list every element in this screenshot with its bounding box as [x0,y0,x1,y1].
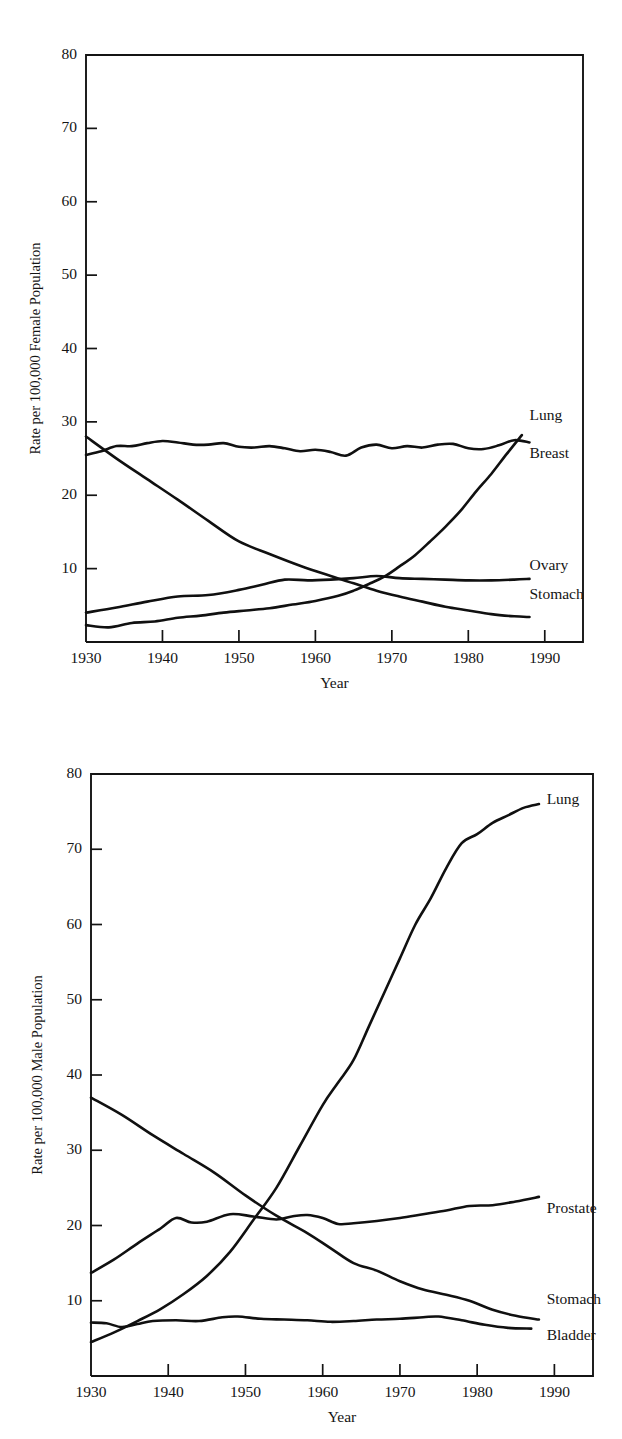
x-tick-label: 1940 [147,649,178,666]
series-line-prostate [91,1197,539,1273]
series-label-lung: Lung [529,406,562,423]
series-line-lung [86,435,522,627]
y-tick-label: 70 [67,839,83,856]
x-tick-label: 1970 [384,1383,415,1400]
series-line-lung [91,804,539,1342]
y-tick-label: 50 [62,265,78,282]
y-tick-label: 70 [62,118,78,135]
plot-frame [86,55,583,642]
x-tick-label: 1990 [529,649,560,666]
x-tick-label: 1980 [462,1383,493,1400]
y-tick-label: 10 [62,559,78,576]
series-label-stomach: Stomach [529,585,583,602]
male-cancer-death-rates-chart: 1020304050607080193019401950196019701980… [0,720,622,1439]
x-tick-label: 1990 [539,1383,570,1400]
series-line-stomach [91,1098,539,1320]
series-label-lung: Lung [547,790,580,807]
x-tick-label: 1950 [230,1383,261,1400]
y-tick-label: 40 [62,339,78,356]
series-label-stomach: Stomach [547,1290,601,1307]
y-tick-label: 60 [62,192,78,209]
x-tick-label: 1950 [223,649,254,666]
female-cancer-death-rates-chart: 1020304050607080193019401950196019701980… [0,0,622,720]
x-tick-label: 1960 [307,1383,338,1400]
x-tick-label: 1970 [376,649,407,666]
series-line-stomach [86,437,529,618]
y-tick-label: 30 [62,412,78,429]
x-tick-label: 1940 [153,1383,184,1400]
series-line-ovary [86,576,529,613]
y-tick-label: 80 [67,764,83,781]
series-line-breast [86,440,529,456]
series-label-bladder: Bladder [547,1326,597,1343]
series-line-bladder [91,1316,531,1328]
female-chart-svg: 1020304050607080193019401950196019701980… [0,0,622,720]
y-tick-label: 40 [67,1065,83,1082]
x-tick-label: 1980 [453,649,484,666]
y-tick-label: 30 [67,1140,83,1157]
y-tick-label: 10 [67,1291,83,1308]
y-tick-label: 60 [67,915,83,932]
y-tick-label: 50 [67,990,83,1007]
figure-page: 1020304050607080193019401950196019701980… [0,0,622,1439]
y-tick-label: 20 [67,1216,83,1233]
x-tick-label: 1960 [300,649,331,666]
x-axis-title: Year [320,674,349,691]
y-tick-label: 80 [62,45,78,62]
x-tick-label: 1930 [76,1383,107,1400]
y-tick-label: 20 [62,485,78,502]
series-label-breast: Breast [529,444,569,461]
x-axis-title: Year [328,1408,357,1425]
male-chart-svg: 1020304050607080193019401950196019701980… [0,720,622,1439]
series-label-ovary: Ovary [529,556,568,573]
x-tick-label: 1930 [71,649,102,666]
y-axis-title: Rate per 100,000 Female Population [27,242,43,455]
y-axis-title: Rate per 100,000 Male Population [29,975,45,1175]
series-label-prostate: Prostate [547,1199,597,1216]
